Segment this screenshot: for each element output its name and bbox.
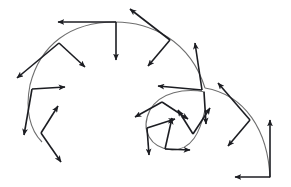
vector-arrow-icon (32, 87, 65, 89)
vector-arrow-icon (17, 43, 59, 78)
vector-arrow-icon (228, 120, 250, 146)
vector-arrow-icon (41, 106, 58, 133)
vector-arrow-icon (218, 83, 250, 120)
vector-arrow-icon (204, 92, 206, 124)
vector-arrow-icon (178, 110, 193, 134)
vector-arrow-icon (59, 43, 85, 67)
vector-arrow-icon (158, 86, 202, 90)
vector-arrow-icon (41, 133, 61, 162)
vector-arrows (17, 9, 270, 177)
trajectory-vector-diagram (0, 0, 291, 187)
vector-arrow-icon (162, 102, 188, 119)
inner-loop (146, 91, 205, 150)
vector-arrow-icon (147, 128, 149, 155)
vector-arrow-icon (165, 149, 190, 150)
vector-arrow-icon (148, 40, 170, 66)
vector-arrow-icon (193, 108, 210, 134)
